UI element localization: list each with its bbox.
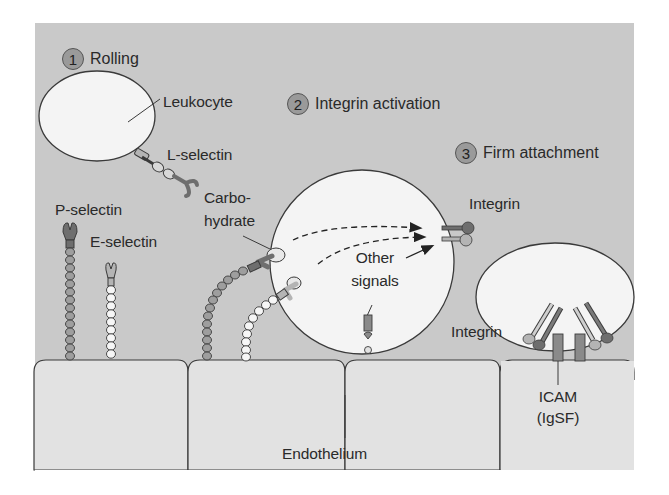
label-other-signals-line1: Other — [349, 250, 401, 266]
label-icam: ICAM — [530, 389, 586, 405]
endothelial-cell-3 — [345, 360, 500, 470]
step-number-badge: 3 — [455, 142, 477, 164]
label-endothelium: Endothelium — [282, 446, 367, 462]
adhesion-cascade-diagram: 1 Rolling 2 Integrin activation 3 Firm a… — [0, 0, 669, 495]
step-number-badge: 1 — [62, 48, 84, 70]
step-1-rolling: 1 Rolling — [62, 48, 139, 70]
endothelial-cell-1 — [34, 360, 188, 470]
label-carbohydrate-line2: hydrate — [204, 213, 255, 229]
step-title: Firm attachment — [483, 144, 599, 162]
label-carbohydrate-line1: Carbo- — [204, 190, 251, 206]
label-e-selectin: E-selectin — [90, 234, 157, 250]
step-2-integrin-activation: 2 Integrin activation — [287, 93, 440, 115]
leukocyte-rolling — [39, 71, 155, 161]
label-l-selectin: L-selectin — [167, 147, 232, 163]
label-leukocyte: Leukocyte — [163, 94, 233, 110]
endothelium-layer — [34, 360, 635, 495]
step-number-badge: 2 — [287, 93, 309, 115]
label-integrin-lower: Integrin — [451, 324, 502, 340]
chemokine-receptor — [364, 315, 372, 354]
label-p-selectin: P-selectin — [55, 202, 122, 218]
step-3-firm-attachment: 3 Firm attachment — [455, 142, 599, 164]
step-title: Integrin activation — [315, 95, 440, 113]
label-other-signals-line2: signals — [345, 273, 405, 289]
label-integrin-upper: Integrin — [469, 196, 520, 212]
step-title: Rolling — [90, 50, 139, 68]
label-icam-igsf: (IgSF) — [530, 410, 586, 426]
